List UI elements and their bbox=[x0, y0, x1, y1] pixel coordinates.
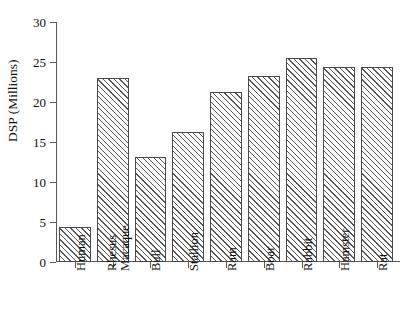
bar bbox=[248, 76, 280, 262]
bar bbox=[361, 67, 393, 262]
x-axis-label-line: Stallion bbox=[188, 232, 201, 271]
y-axis-tick-label: 25 bbox=[0, 56, 46, 69]
x-axis-label-line: Rabbit bbox=[302, 238, 315, 271]
bar bbox=[210, 92, 242, 262]
y-axis-tick-label: 30 bbox=[0, 16, 46, 29]
y-axis-tick-label: 20 bbox=[0, 96, 46, 109]
bar bbox=[135, 157, 167, 262]
y-axis-tick-label: 5 bbox=[0, 216, 46, 229]
x-axis-label: Rabbit bbox=[302, 238, 315, 271]
x-axis-label-line: Hamster bbox=[339, 229, 352, 271]
x-axis-label: RhesusMacaque bbox=[106, 225, 132, 271]
x-axis-label: Bull bbox=[150, 249, 163, 271]
x-axis-label-line: Bull bbox=[150, 249, 163, 271]
x-axis-label: Rat bbox=[377, 254, 390, 271]
x-axis-label-line: Human bbox=[75, 234, 88, 271]
y-axis-tick-label: 10 bbox=[0, 176, 46, 189]
x-axis-label: Hamster bbox=[339, 229, 352, 271]
x-axis-label-line: Boar bbox=[264, 247, 277, 271]
x-axis-label: Boar bbox=[264, 247, 277, 271]
x-axis-label-line: Macaque bbox=[119, 225, 132, 271]
y-axis-tick bbox=[50, 262, 56, 263]
x-axis-label-line: Rhesus bbox=[106, 225, 119, 271]
bar bbox=[286, 58, 318, 262]
x-axis-label: Stallion bbox=[188, 232, 201, 271]
x-axis-label-line: Rat bbox=[377, 254, 390, 271]
x-axis-label-line: Ram bbox=[226, 247, 239, 271]
y-axis-tick-label: 15 bbox=[0, 136, 46, 149]
y-axis-tick-label: 0 bbox=[0, 256, 46, 269]
x-axis-label: Ram bbox=[226, 247, 239, 271]
chart-figure: DSP (Millions) 051015202530 HumanRhesusM… bbox=[0, 0, 412, 324]
x-axis-label: Human bbox=[75, 234, 88, 271]
